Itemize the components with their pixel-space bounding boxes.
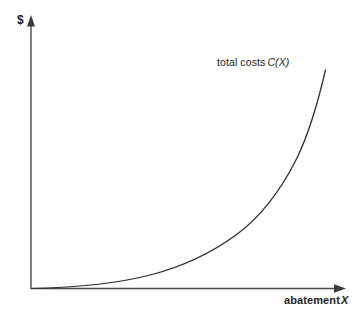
abatement-cost-figure: $ abatementX total costsC(X) xyxy=(0,0,358,319)
total-cost-curve xyxy=(31,70,326,289)
x-axis-label-text: abatement xyxy=(284,294,340,306)
x-axis-arrow-icon xyxy=(334,284,346,293)
y-axis-label: $ xyxy=(17,14,24,26)
y-axis-arrow-icon xyxy=(27,15,35,27)
curve-annotation-text: total costs xyxy=(217,56,265,68)
curve-annotation-variable: C(X) xyxy=(265,56,289,68)
x-axis-label: abatementX xyxy=(284,295,348,306)
chart-canvas xyxy=(0,0,358,319)
x-axis-label-variable: X xyxy=(340,294,348,306)
curve-annotation-label: total costsC(X) xyxy=(217,57,289,68)
